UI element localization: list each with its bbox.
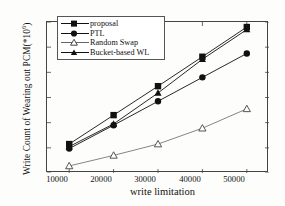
legend-item-ptl[interactable]: PTL <box>60 29 161 39</box>
y-axis-label-close: ) <box>22 22 32 25</box>
open-triangle-icon <box>60 38 90 47</box>
filled-triangle-icon <box>60 48 90 57</box>
y-axis-label: Write Count of Wearing out PCM(*106) <box>21 14 32 184</box>
y-axis-label-exponent: 6 <box>20 26 27 29</box>
legend-label: Bucket-based WL <box>90 48 149 57</box>
x-tick-label: 20000 <box>76 175 126 184</box>
legend-item-random-swap[interactable]: Random Swap <box>60 38 161 48</box>
x-tick-label: 10000 <box>32 175 82 184</box>
x-tick-label: 30000 <box>120 175 170 184</box>
legend-label: Random Swap <box>90 38 138 47</box>
filled-square-icon <box>60 19 90 28</box>
x-tick-label: 40000 <box>165 175 215 184</box>
filled-circle-icon <box>60 29 90 38</box>
legend: proposal PTL Random Swap Bucket-based WL <box>57 16 165 60</box>
y-axis-label-text: Write Count of Wearing out PCM(*10 <box>22 29 32 175</box>
legend-item-proposal[interactable]: proposal <box>60 19 161 29</box>
x-tick-label: 50000 <box>209 175 259 184</box>
legend-label: PTL <box>90 29 105 38</box>
legend-item-bucket-based-wl[interactable]: Bucket-based WL <box>60 48 161 58</box>
x-axis-label: write limitation <box>40 186 285 197</box>
chart-figure: Write Count of Wearing out PCM(*106) wri… <box>0 0 285 206</box>
legend-label: proposal <box>90 19 118 28</box>
